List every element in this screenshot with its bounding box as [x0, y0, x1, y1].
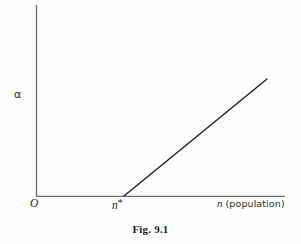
alpha-growth-line [124, 79, 267, 196]
threshold-label: n* [112, 198, 123, 212]
origin-label: O [30, 198, 38, 210]
x-axis-unit-text: (population) [226, 198, 285, 209]
x-axis-label: n (population) [217, 198, 285, 209]
figure-container: α O n* n (population) Fig. 9.1 [0, 0, 301, 244]
threshold-superscript-asterisk: * [118, 197, 123, 208]
x-axis-variable: n [217, 197, 223, 209]
y-axis-label: α [14, 89, 21, 100]
figure-caption: Fig. 9.1 [0, 223, 301, 235]
